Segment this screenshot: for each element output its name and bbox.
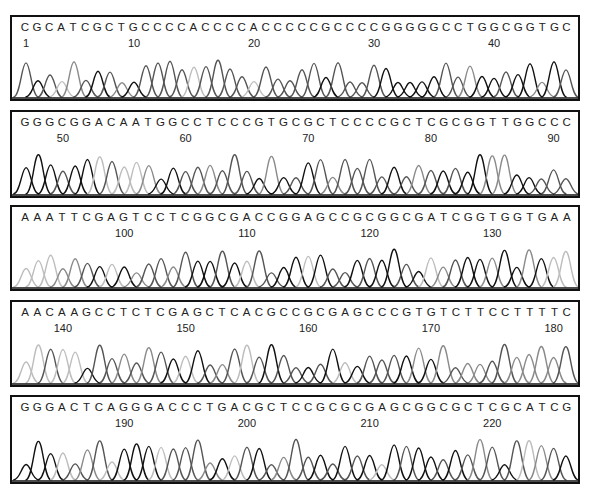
chromatogram-panel: AAATTCGAGTCCTCGGCGACCGGAGCCGCGGCGATCGGTG… — [10, 205, 580, 291]
position-ticks: 5060708090 — [12, 132, 578, 146]
base-call: C — [333, 21, 343, 37]
trace-peak-t — [197, 165, 223, 194]
base-call: G — [45, 116, 55, 132]
base-call: C — [500, 306, 510, 322]
base-call: C — [82, 211, 92, 227]
base-call: G — [32, 21, 42, 37]
position-ticks: 110203040 — [12, 37, 578, 51]
trace-peak-a — [13, 362, 39, 383]
base-call: C — [57, 116, 67, 132]
trace-peak-a — [541, 257, 567, 287]
position-label: 10 — [128, 37, 140, 49]
base-call: C — [402, 401, 412, 417]
base-call: T — [439, 211, 449, 227]
base-call: A — [32, 306, 42, 322]
base-call: G — [119, 211, 129, 227]
position-label: 30 — [368, 37, 380, 49]
trace-peak-g — [332, 446, 358, 480]
trace-peak-t — [430, 267, 456, 287]
base-call: A — [57, 401, 67, 417]
base-call: T — [57, 211, 67, 227]
base-call: G — [128, 21, 138, 37]
base-call-sequence: GGGACTCAGGGACCCTGACGCTCCGCGCGAGCGGCGCTCG… — [20, 401, 572, 417]
base-call: C — [402, 116, 412, 132]
base-call: C — [225, 21, 235, 37]
base-call: G — [477, 21, 487, 37]
base-call: T — [463, 306, 473, 322]
base-call: C — [143, 211, 153, 227]
base-call: T — [476, 306, 486, 322]
base-call: T — [513, 306, 523, 322]
base-call: G — [352, 211, 362, 227]
base-call: C — [176, 21, 186, 37]
trace-peak-t — [320, 177, 346, 194]
trace-peak-c — [369, 177, 395, 194]
base-call: C — [352, 401, 362, 417]
base-call: T — [476, 401, 486, 417]
base-call: A — [119, 116, 129, 132]
trace-peak-c — [325, 63, 350, 97]
base-call: C — [365, 306, 375, 322]
base-call: C — [377, 306, 387, 322]
base-call: G — [316, 401, 326, 417]
base-call: T — [68, 21, 78, 37]
base-call: C — [80, 21, 90, 37]
base-call: A — [155, 401, 165, 417]
base-call: C — [273, 21, 283, 37]
base-call: G — [402, 306, 412, 322]
base-call: C — [352, 116, 362, 132]
base-call: T — [116, 21, 126, 37]
base-call: C — [561, 21, 571, 37]
base-call: C — [106, 306, 116, 322]
trace-peak-c — [344, 168, 370, 194]
trace-peak-g — [148, 179, 174, 194]
trace-peak-t — [61, 62, 86, 97]
base-call: G — [94, 211, 104, 227]
base-call: C — [164, 21, 174, 37]
base-call: G — [426, 306, 436, 322]
position-label: 40 — [488, 37, 500, 49]
chromatogram-panel: GGGACTCAGGGACCCTGACGCTCCGCGCGAGCGGCGCTCG… — [10, 395, 580, 484]
base-call-sequence: GGGCGGACAATGGCCTCCCGTGCGCTCCCCGCTCGCGGTT… — [20, 116, 572, 132]
trace-plot — [12, 148, 578, 196]
trace-peak-g — [313, 77, 338, 97]
trace-peak-g — [25, 81, 50, 97]
base-call-sequence: CGCATCGCTGCCCCACCCCACCCCCGCCCCGGGGGCCTGG… — [20, 21, 572, 37]
base-call: C — [426, 116, 436, 132]
base-call: A — [303, 211, 313, 227]
base-call: C — [254, 306, 264, 322]
base-call: T — [217, 306, 227, 322]
base-call: G — [513, 21, 523, 37]
position-ticks: 140150160170180 — [12, 322, 578, 336]
trace-peak-t — [455, 363, 481, 383]
base-call: G — [429, 21, 439, 37]
base-call: C — [266, 401, 276, 417]
trace-peak-g — [62, 166, 88, 194]
base-call: T — [488, 116, 498, 132]
trace-peak-a — [99, 462, 125, 480]
base-call: G — [463, 211, 473, 227]
base-call: C — [309, 21, 319, 37]
trace-peak-c — [479, 447, 505, 480]
trace-peak-a — [49, 82, 74, 97]
base-call: A — [56, 21, 66, 37]
trace-peak-a — [13, 268, 39, 287]
trace-peak-c — [217, 69, 242, 97]
base-call: C — [369, 21, 379, 37]
base-call: C — [451, 116, 461, 132]
trace-peak-a — [87, 157, 113, 194]
base-call: A — [377, 401, 387, 417]
base-call: G — [389, 401, 399, 417]
base-call: C — [155, 306, 165, 322]
trace-peak-c — [493, 72, 518, 97]
base-call: G — [192, 211, 202, 227]
base-call: C — [316, 116, 326, 132]
trace-peak-c — [87, 441, 113, 480]
trace-peak-g — [504, 267, 530, 287]
base-call: C — [155, 211, 165, 227]
trace-peak-t — [529, 82, 554, 97]
base-call: T — [414, 306, 424, 322]
trace-peak-g — [344, 366, 370, 383]
base-call: C — [279, 306, 289, 322]
base-call: T — [168, 211, 178, 227]
